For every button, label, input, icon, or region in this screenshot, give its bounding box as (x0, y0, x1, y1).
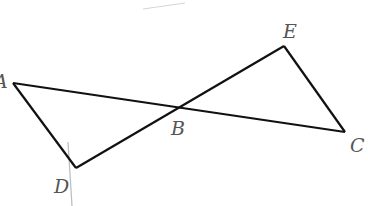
label-d: D (53, 175, 69, 197)
label-e: E (282, 20, 297, 42)
segment-ad (13, 83, 76, 168)
segment-de (76, 46, 284, 168)
label-a: A (0, 70, 8, 92)
geometry-diagram: A B C D E (0, 0, 368, 206)
label-c: C (350, 134, 365, 156)
label-b: B (170, 117, 185, 139)
faint-scribble (143, 3, 185, 9)
segment-ec (284, 46, 345, 132)
